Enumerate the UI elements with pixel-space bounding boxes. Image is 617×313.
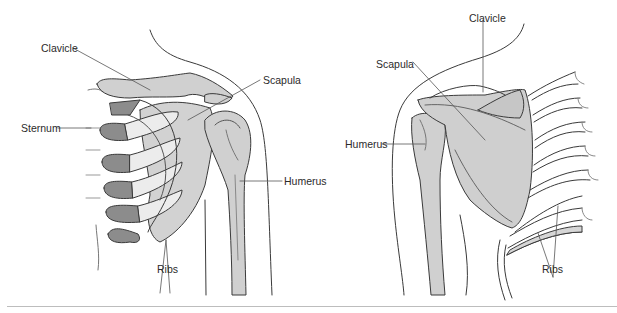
shoulder-illustration <box>0 0 617 313</box>
label-ribs-anterior: Ribs <box>157 263 178 275</box>
label-scapula-anterior: Scapula <box>263 74 301 86</box>
label-clavicle-posterior: Clavicle <box>469 12 506 24</box>
label-humerus-posterior: Humerus <box>345 138 388 150</box>
label-humerus-anterior: Humerus <box>284 175 327 187</box>
label-clavicle-anterior: Clavicle <box>41 42 78 54</box>
bottom-divider <box>7 306 617 307</box>
shoulder-anatomy-figure: Clavicle Scapula Sternum Humerus Ribs Cl… <box>0 0 617 313</box>
label-sternum-anterior: Sternum <box>21 122 61 134</box>
anterior-view-drawing <box>86 30 272 295</box>
label-ribs-posterior: Ribs <box>542 263 563 275</box>
label-scapula-posterior: Scapula <box>376 58 414 70</box>
posterior-view-drawing <box>392 24 598 300</box>
